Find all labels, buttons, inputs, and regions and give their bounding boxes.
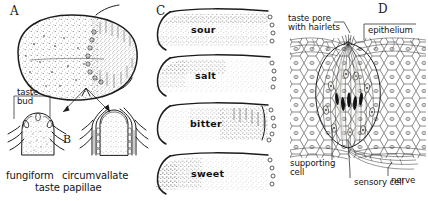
panel-c-taste-maps: C [150, 0, 290, 201]
epithelium-label: epithelium [368, 26, 413, 35]
panel-letter-d: D [378, 2, 388, 16]
panel-a-b-left-column: A [0, 0, 150, 201]
taste-anatomy-figure: A [0, 0, 428, 201]
circumvallate-papilla-section [80, 108, 148, 155]
panel-letter-b: B [63, 133, 72, 146]
circumvallate-label: circumvallate [62, 171, 128, 180]
vallate-circles-sour [268, 15, 275, 43]
nerve-label: nerve [391, 176, 415, 185]
vallate-circles-bitter [267, 108, 276, 142]
panel-letter-a: A [10, 4, 19, 18]
taste-map-sour-label: sour [191, 24, 216, 35]
panel-d-taste-bud: D [288, 0, 428, 201]
taste-map-sweet-label: sweet [191, 168, 224, 179]
taste-pore-label: taste pore with hairlets [288, 14, 340, 32]
fungiform-papilla-section [8, 113, 66, 155]
supporting-cell-label: supporting cell [290, 159, 335, 177]
vallate-circles-sweet [268, 158, 275, 186]
vallate-circles-salt [270, 61, 276, 89]
taste-map-salt-label: salt [195, 70, 216, 81]
fungiform-label: fungiform [6, 171, 54, 180]
taste-bud-label: taste bud [17, 88, 38, 106]
taste-map-bitter-label: bitter [190, 118, 222, 129]
taste-papillae-label: taste papillae [35, 183, 102, 192]
panel-letter-c: C [156, 4, 166, 18]
